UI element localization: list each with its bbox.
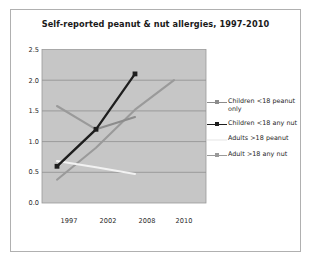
legend-marker-adults-peanut — [207, 135, 227, 144]
legend-marker-adult-any-nut — [207, 151, 227, 160]
legend-item-children-any-nut[interactable]: Children <18 any nut — [207, 120, 302, 129]
legend-marker-children-any-nut — [207, 120, 227, 129]
legend-label-adult-any-nut: Adult >18 any nut — [228, 151, 287, 159]
plot-background — [42, 50, 206, 204]
legend-item-adult-any-nut[interactable]: Adult >18 any nut — [207, 151, 302, 160]
legend-item-adults-peanut[interactable]: Adults >18 peanut — [207, 135, 302, 144]
legend-label-adults-peanut: Adults >18 peanut — [228, 135, 288, 143]
data-marker — [55, 164, 60, 169]
data-marker — [94, 127, 99, 132]
legend-marker-children-peanut-only — [207, 98, 227, 107]
chart-legend: Children <18 peanut only Children <18 an… — [207, 98, 302, 166]
legend-label-children-peanut-only: Children <18 peanut only — [228, 98, 302, 113]
data-marker — [133, 72, 138, 77]
chart-figure: Self-reported peanut & nut allergies, 19… — [10, 9, 301, 252]
legend-item-children-peanut-only[interactable]: Children <18 peanut only — [207, 98, 302, 113]
legend-label-children-any-nut: Children <18 any nut — [228, 120, 297, 128]
